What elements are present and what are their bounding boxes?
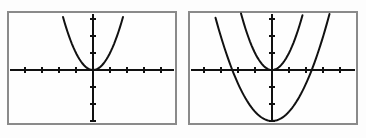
- graph-panel-left: [7, 11, 177, 125]
- graph-left-svg: [7, 11, 177, 125]
- graph-right-svg: [188, 11, 358, 125]
- figure-root: [0, 0, 366, 138]
- graph-panel-right: [188, 11, 358, 125]
